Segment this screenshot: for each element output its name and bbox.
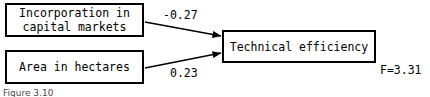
f-statistic-value: F=3.31 bbox=[380, 62, 430, 78]
node-technical-efficiency: Technical efficiency bbox=[222, 30, 376, 63]
figure-caption: Figure 3.10 bbox=[3, 88, 53, 97]
model-statistics: F=3.31 p=0.04 bbox=[380, 30, 430, 97]
node-area-in-hectares: Area in hectares bbox=[5, 50, 144, 84]
node-incorporation-in-capital-markets: Incorporation in capital markets bbox=[5, 3, 144, 37]
edge-label-area-coefficient: 0.23 bbox=[170, 67, 198, 80]
edge-label-incorporation-coefficient: -0.27 bbox=[163, 9, 198, 22]
node-technical-efficiency-label: Technical efficiency bbox=[230, 40, 368, 54]
edge-incorporation-to-technical-efficiency bbox=[145, 22, 221, 36]
node-incorporation-label: Incorporation in capital markets bbox=[19, 6, 130, 34]
path-diagram: Incorporation in capital markets Area in… bbox=[0, 0, 430, 97]
node-area-label: Area in hectares bbox=[19, 60, 130, 74]
